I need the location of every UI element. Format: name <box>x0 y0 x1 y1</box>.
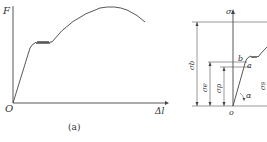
dim-arrow-icon <box>223 102 226 106</box>
origin-label: O <box>5 103 13 114</box>
dim-arrow-icon <box>196 22 199 26</box>
y-axis-label: F <box>2 5 11 16</box>
figure-canvas: F O Δl (a) σ o b a α σb σe σp σs <box>0 0 267 142</box>
point-a-label: a <box>247 61 252 70</box>
sigma-axis-arrow-icon <box>231 9 235 14</box>
origin-label-b: o <box>229 108 234 117</box>
dim-arrow-icon <box>223 67 226 71</box>
caption-a: (a) <box>68 122 80 132</box>
dim-arrow-icon <box>196 102 199 106</box>
sigma-b-label: σb <box>188 60 196 70</box>
sigma-e-label: σe <box>201 83 209 92</box>
sigma-s-label: σs <box>259 81 267 90</box>
dim-arrow-icon <box>209 102 212 106</box>
point-b-label: b <box>238 54 243 63</box>
dim-arrow-icon <box>209 62 212 66</box>
sigma-axis-label: σ <box>226 7 232 16</box>
figure-b: σ o b a α σb σe σp σs <box>188 7 267 117</box>
x-axis-arrow-icon <box>165 101 169 105</box>
x-axis-label: Δl <box>154 106 164 116</box>
angle-label: α <box>246 91 252 100</box>
sigma-p-label: σp <box>215 83 223 93</box>
figure-a: F O Δl (a) <box>2 5 169 132</box>
load-curve <box>13 7 145 103</box>
